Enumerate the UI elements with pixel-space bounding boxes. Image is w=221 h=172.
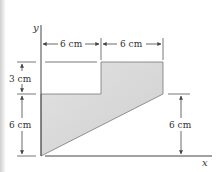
left-dimension-6cm: 6 cm — [9, 96, 32, 154]
left-dimension-3cm: 3 cm — [9, 64, 32, 92]
x-axis: x — [45, 156, 212, 168]
dim-top-left-width: 6 cm — [60, 39, 83, 49]
y-axis: y — [32, 22, 41, 156]
shaded-region — [41, 62, 163, 156]
dim-left-lower-height: 6 cm — [9, 120, 32, 130]
dim-right-height: 6 cm — [169, 120, 192, 130]
dim-left-upper-height: 3 cm — [9, 74, 32, 84]
page-edge-shadow — [0, 0, 6, 172]
diagram-canvas: y x 6 cm 6 cm — [0, 0, 221, 172]
top-dimensions: 6 cm 6 cm — [43, 38, 163, 60]
y-axis-label: y — [32, 22, 39, 33]
x-axis-label: x — [202, 157, 208, 168]
right-dimension-6cm: 6 cm — [169, 96, 192, 154]
figure-svg: y x 6 cm 6 cm — [0, 0, 221, 172]
dim-top-right-width: 6 cm — [120, 39, 143, 49]
